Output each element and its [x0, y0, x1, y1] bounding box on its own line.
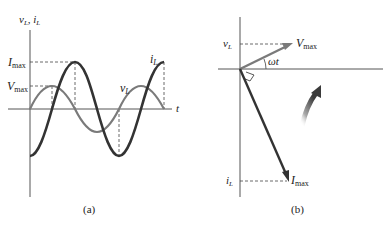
v-l-curve-label: vL	[120, 81, 130, 96]
rotation-arrow	[302, 85, 321, 126]
vmax-phasor-label: Vmax	[296, 36, 317, 51]
angle-arc	[264, 59, 266, 69]
i-l-projection-label: iL	[226, 174, 233, 188]
y-axis-label: vL, iL	[19, 13, 40, 27]
i-l-curve-label: iL	[150, 52, 158, 67]
panel-a-caption: (a)	[83, 203, 96, 216]
imax-phasor	[240, 69, 286, 174]
panel-a-waveforms: vL, iL Imax Vmax iL vL t (a)	[7, 13, 180, 216]
imax-arrowhead	[282, 170, 289, 182]
omega-t-angle-label: ωt	[268, 55, 280, 67]
figure-canvas: vL, iL Imax Vmax iL vL t (a)	[0, 0, 386, 226]
imax-phasor-label: Imax	[290, 173, 309, 188]
time-axis-label: t	[176, 102, 180, 114]
vmax-level-label: Vmax	[7, 79, 28, 94]
v-l-projection-label: vL	[223, 37, 232, 51]
panel-b-caption: (b)	[291, 203, 304, 216]
imax-level-label: Imax	[7, 55, 26, 70]
panel-b-phasor-diagram: vL Vmax ωt iL Imax (b)	[218, 17, 383, 216]
